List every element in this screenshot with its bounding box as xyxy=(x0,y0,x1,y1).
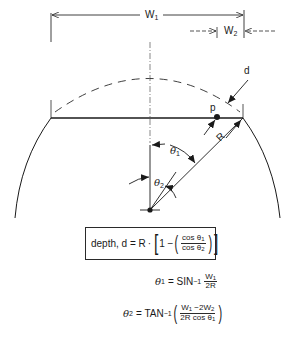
theta1-label: θ1 xyxy=(170,146,180,157)
point-p xyxy=(214,114,220,120)
w1-label: W1 xyxy=(145,10,158,21)
sphere-arc-left xyxy=(15,118,51,218)
depth-formula: depth, d = R · [ 1 − ( cos θ1 cos θ2 ) ] xyxy=(91,232,219,254)
theta1-formula: θ1 = SIN−1 W1 2R xyxy=(155,273,218,291)
d-arrow xyxy=(228,80,248,103)
theta2-arc-right xyxy=(165,186,176,198)
d-label: d xyxy=(244,66,250,76)
theta2-label: θ2 xyxy=(154,178,164,189)
sphere-depth-diagram xyxy=(0,0,287,341)
w2-label: W2 xyxy=(224,26,237,37)
sphere-arc-right xyxy=(243,118,280,218)
depth-formula-box: depth, d = R · [ 1 − ( cos θ1 cos θ2 ) ] xyxy=(85,227,216,260)
theta2-arc-left xyxy=(129,177,149,184)
cos-ratio-fraction: cos θ1 cos θ2 xyxy=(181,234,205,252)
radius-line xyxy=(150,118,243,210)
theta2-formula: θ2 = TAN−1 ( W1 −2W2 2R cos θ1 ) xyxy=(123,303,224,323)
p-label: p xyxy=(210,103,216,113)
